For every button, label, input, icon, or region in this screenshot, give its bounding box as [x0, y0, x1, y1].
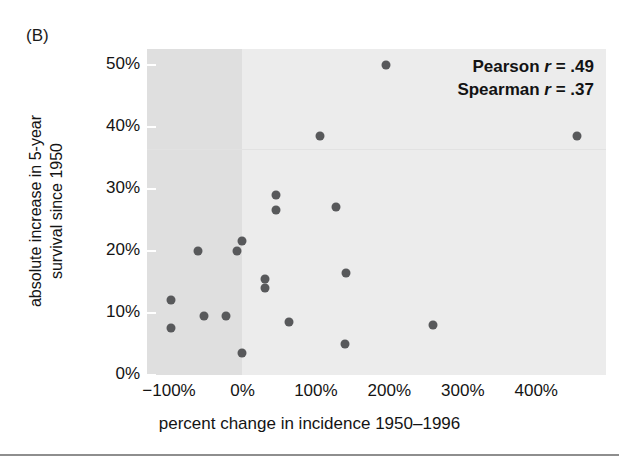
y-axis-tick-mark	[147, 374, 156, 376]
pearson-value: .49	[570, 57, 594, 76]
spearman-equals: =	[556, 80, 566, 99]
data-point	[199, 312, 208, 321]
pearson-symbol: r	[544, 57, 551, 76]
faint-gridline	[147, 149, 606, 150]
x-axis-tick-label: 400%	[491, 381, 581, 401]
data-point	[167, 296, 176, 305]
correlation-annotation: Pearson r = .49 Spearman r = .37	[457, 55, 594, 101]
spearman-label: Spearman	[457, 80, 539, 99]
data-point	[315, 131, 324, 140]
data-point	[572, 131, 581, 140]
figure-panel-b: (B) Pearson r = .49 Spearman r = .37 0%1…	[0, 0, 619, 469]
data-point	[381, 60, 390, 69]
data-point	[238, 237, 247, 246]
data-point	[271, 190, 280, 199]
panel-label: (B)	[26, 26, 49, 46]
y-axis-tick-label: 40%	[80, 116, 140, 136]
y-axis-title-line2: survival since 1950	[46, 61, 67, 361]
y-axis-tick-label: 10%	[80, 302, 140, 322]
spearman-annotation: Spearman r = .37	[457, 78, 594, 101]
data-point	[238, 349, 247, 358]
y-axis-tick-label: 30%	[80, 178, 140, 198]
y-axis-title: absolute increase in 5-year survival sin…	[25, 61, 67, 361]
pearson-equals: =	[556, 57, 566, 76]
y-axis-tick-mark	[147, 188, 156, 190]
y-axis-tick-mark	[147, 126, 156, 128]
x-axis-title: percent change in incidence 1950–1996	[0, 414, 619, 434]
x-axis-tick-labels: −100%0%100%200%300%400%	[0, 381, 619, 407]
data-point	[272, 206, 281, 215]
spearman-symbol: r	[544, 80, 551, 99]
y-axis-tick-label: 50%	[80, 54, 140, 74]
data-point	[429, 321, 438, 330]
data-point	[233, 246, 242, 255]
shaded-negative-region	[147, 49, 242, 375]
pearson-label: Pearson	[473, 57, 540, 76]
data-point	[331, 203, 340, 212]
data-point	[342, 268, 351, 277]
data-point	[340, 339, 349, 348]
data-point	[222, 312, 231, 321]
data-point	[261, 274, 270, 283]
y-axis-tick-mark	[147, 250, 156, 252]
data-point	[167, 324, 176, 333]
figure-bottom-rule	[0, 454, 619, 456]
y-axis-tick-label: 20%	[80, 240, 140, 260]
scatter-plot-area: Pearson r = .49 Spearman r = .37	[147, 49, 606, 375]
data-point	[285, 318, 294, 327]
data-point	[261, 284, 270, 293]
y-axis-tick-mark	[147, 312, 156, 314]
spearman-value: .37	[570, 80, 594, 99]
y-axis-tick-mark	[147, 64, 156, 66]
data-point	[193, 246, 202, 255]
pearson-annotation: Pearson r = .49	[457, 55, 594, 78]
y-axis-title-line1: absolute increase in 5-year	[25, 61, 46, 361]
